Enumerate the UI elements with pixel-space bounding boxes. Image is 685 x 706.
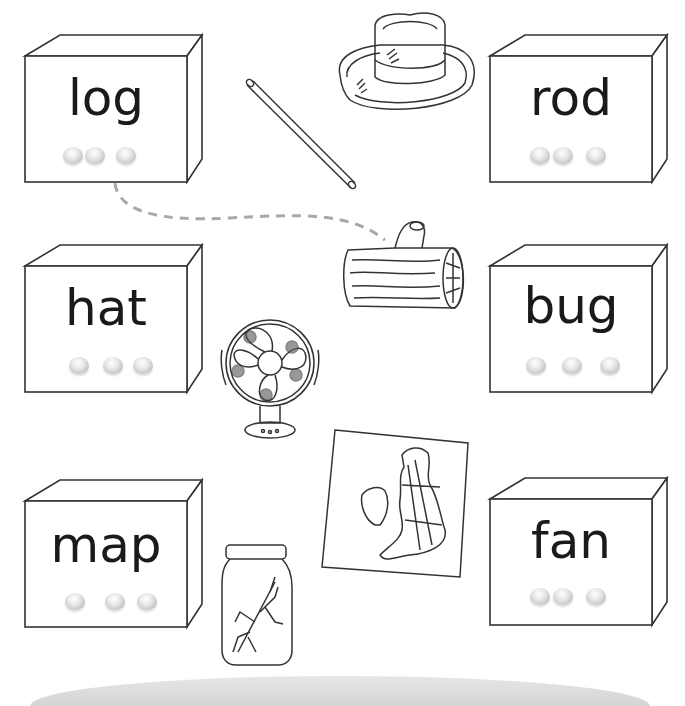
log-picture[interactable] — [340, 218, 470, 318]
bug-picture[interactable] — [220, 542, 295, 667]
bug-in-jar-icon — [222, 545, 292, 665]
map-picture[interactable] — [320, 425, 480, 590]
log-icon — [344, 222, 464, 308]
fan-picture[interactable] — [220, 315, 320, 445]
hat-picture[interactable] — [335, 5, 480, 115]
map-icon — [322, 430, 468, 577]
hat-icon — [339, 13, 474, 109]
fan-icon — [221, 320, 319, 438]
